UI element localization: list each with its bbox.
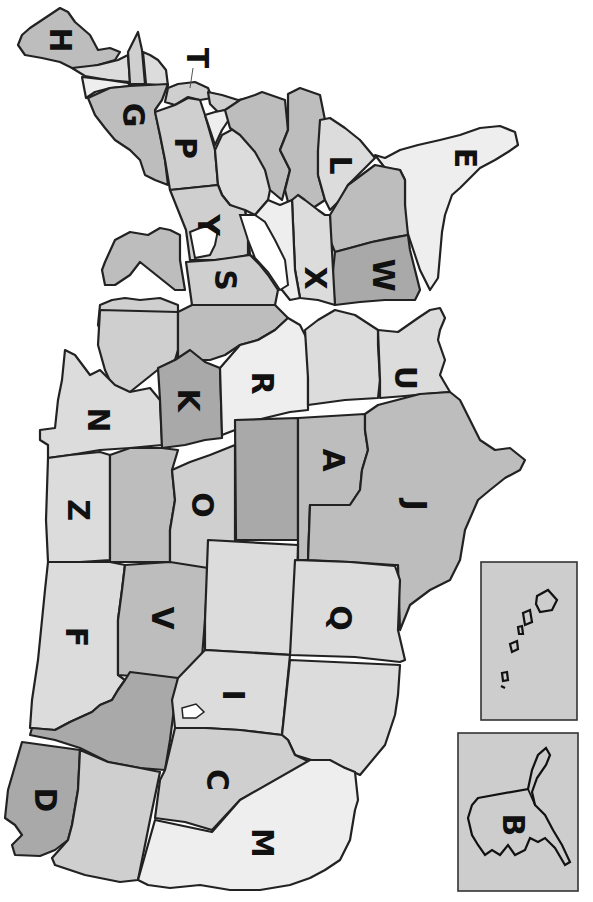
label-E: E bbox=[448, 148, 483, 169]
label-U: U bbox=[388, 366, 423, 390]
label-B: B bbox=[496, 814, 531, 837]
state-ma[interactable] bbox=[128, 32, 145, 84]
label-V: V bbox=[145, 606, 180, 630]
label-R: R bbox=[245, 371, 280, 394]
label-F: F bbox=[59, 627, 94, 648]
label-K: K bbox=[171, 388, 206, 413]
label-T: T bbox=[180, 48, 215, 69]
state-ar[interactable] bbox=[305, 310, 380, 405]
state-G[interactable] bbox=[88, 84, 168, 185]
label-Z: Z bbox=[61, 499, 96, 521]
us-map: H T G P Y S L E X W N K R U A J Z O F V … bbox=[0, 0, 593, 902]
label-A: A bbox=[316, 448, 351, 472]
state-ks[interactable] bbox=[235, 418, 298, 540]
label-I: I bbox=[216, 689, 251, 700]
label-P: P bbox=[168, 137, 203, 159]
hawaii-inset bbox=[481, 562, 577, 720]
label-W: W bbox=[366, 258, 401, 291]
label-J: J bbox=[398, 497, 433, 510]
state-co[interactable] bbox=[205, 540, 298, 655]
label-G: G bbox=[116, 103, 151, 128]
label-O: O bbox=[185, 492, 220, 518]
state-ri-ct[interactable] bbox=[143, 52, 168, 86]
label-Y: Y bbox=[191, 213, 226, 237]
label-X: X bbox=[298, 266, 333, 289]
label-N: N bbox=[81, 407, 116, 432]
label-S: S bbox=[208, 269, 243, 291]
label-D: D bbox=[28, 788, 63, 813]
label-H: H bbox=[43, 27, 78, 52]
label-L: L bbox=[323, 155, 358, 174]
label-M: M bbox=[245, 828, 280, 858]
alaska-inset bbox=[458, 733, 578, 891]
label-Q: Q bbox=[323, 605, 358, 631]
state-mi[interactable] bbox=[102, 228, 185, 290]
label-C: C bbox=[200, 769, 235, 791]
state-sd[interactable] bbox=[110, 448, 178, 562]
